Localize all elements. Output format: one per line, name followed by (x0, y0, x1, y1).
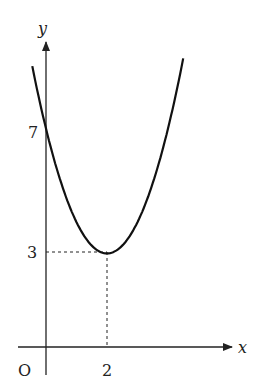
origin-label: O (18, 361, 31, 380)
tick-label-y-7: 7 (28, 123, 38, 142)
parabola-curve (32, 58, 183, 253)
tick-label-x-2: 2 (102, 361, 112, 380)
x-axis-label: x (238, 338, 247, 357)
tick-label-y-3: 3 (27, 243, 37, 262)
y-axis-label: y (37, 19, 48, 38)
parabola-chart: y x O 2 3 7 (0, 0, 266, 386)
